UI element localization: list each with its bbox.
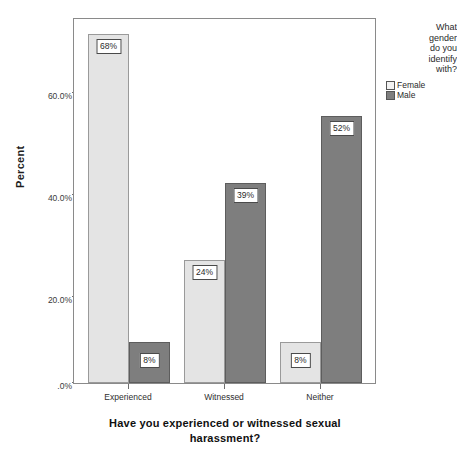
legend-title-line5: with? [386, 64, 457, 75]
legend-title: What gender do you identify with? [386, 22, 457, 75]
bar-value-label: 52% [329, 121, 354, 136]
y-tick-20: 20.0% [20, 296, 72, 297]
bar-group-witnessed: 24% 39% [184, 19, 266, 383]
y-axis-title: Percent [14, 88, 26, 188]
x-axis-title-line1: Have you experienced or witnessed sexual [40, 416, 410, 431]
plot-inner: 68% 8% 24% 39% 8% [74, 19, 375, 383]
legend-title-line3: do you [386, 43, 457, 54]
legend: What gender do you identify with? Female… [386, 22, 457, 101]
y-tick-40: 40.0% [20, 194, 72, 195]
y-tick-label-20: 20.0% [26, 296, 72, 304]
bar-value-label: 68% [96, 39, 121, 54]
bar-value-label: 24% [192, 265, 217, 280]
bar-value-label: 39% [233, 188, 258, 203]
x-category-neither: Neither [306, 392, 333, 402]
bar-neither-female: 8% [280, 342, 321, 383]
bar-neither-male: 52% [321, 116, 362, 383]
bar-witnessed-female: 24% [184, 260, 225, 383]
legend-title-line4: identify [386, 54, 457, 65]
legend-label-male: Male [397, 91, 415, 100]
bar-chart: Percent 60.0% 40.0% 20.0% .0% 68% 8% [0, 0, 457, 449]
x-category-experienced: Experienced [104, 392, 151, 402]
bar-group-neither: 8% 52% [280, 19, 362, 383]
legend-title-line1: What [386, 22, 457, 33]
legend-item-male: Male [386, 91, 457, 100]
bar-group-experienced: 68% 8% [88, 19, 170, 383]
bar-experienced-male: 8% [129, 342, 170, 383]
x-category-witnessed: Witnessed [204, 392, 244, 402]
y-tick-label-0: .0% [26, 382, 72, 390]
plot-area: 68% 8% 24% 39% 8% [73, 18, 376, 384]
bar-witnessed-male: 39% [225, 183, 266, 383]
bar-experienced-female: 68% [88, 34, 129, 383]
y-tick-60: 60.0% [20, 92, 72, 93]
x-tick-mark-witnessed [224, 384, 225, 389]
bar-value-label: 8% [290, 353, 310, 368]
bar-value-label: 8% [139, 353, 159, 368]
x-axis-title-line2: harassment? [40, 431, 410, 446]
legend-title-line2: gender [386, 33, 457, 44]
x-tick-mark-experienced [128, 384, 129, 389]
y-tick-label-40: 40.0% [26, 194, 72, 202]
legend-label-female: Female [397, 81, 425, 90]
y-tick-label-60: 60.0% [26, 92, 72, 100]
legend-item-female: Female [386, 81, 457, 90]
x-tick-mark-neither [320, 384, 321, 389]
legend-swatch-male-icon [386, 91, 395, 100]
x-axis-title: Have you experienced or witnessed sexual… [40, 416, 410, 446]
y-tick-0: .0% [20, 382, 72, 383]
legend-swatch-female-icon [386, 81, 395, 90]
